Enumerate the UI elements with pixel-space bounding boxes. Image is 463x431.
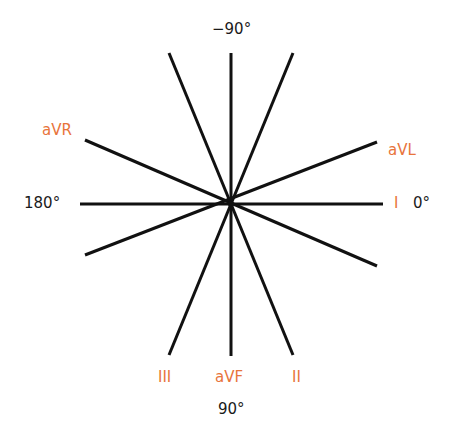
- lead-label-avl: aVL: [388, 141, 416, 159]
- lead-label-ii: II: [292, 368, 301, 386]
- lead-label-i: I: [394, 194, 398, 212]
- degree-label-0: 0°: [413, 194, 430, 212]
- lead-label-avf: aVF: [215, 368, 243, 386]
- degree-label-180: 180°: [24, 194, 60, 212]
- center-point: [228, 201, 234, 207]
- hexaxial-diagram: aVRaVLIIIIaVFII−90°180°0°90°: [0, 0, 463, 431]
- degree-label-minus-90: −90°: [212, 20, 251, 38]
- degree-label-90: 90°: [218, 400, 245, 418]
- axes-svg: [0, 0, 463, 431]
- lead-label-iii: III: [158, 368, 171, 386]
- lead-label-avr: aVR: [42, 121, 72, 139]
